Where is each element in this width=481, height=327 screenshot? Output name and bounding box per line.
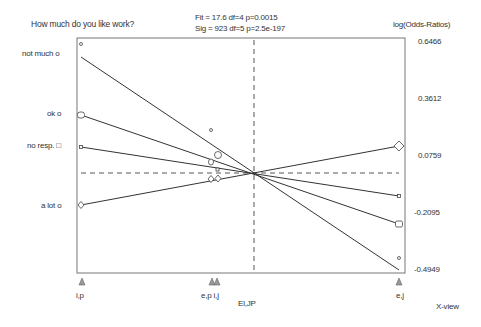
marker-a-lot-mid-2 [215,175,221,182]
marker-no-resp-mid [216,168,219,171]
x-marker-ij[interactable] [214,278,220,285]
marker-ok-left [78,112,85,118]
series-line-not-much [81,57,399,270]
plot-area [0,0,481,327]
marker-no-resp-left [80,146,83,149]
marker-ok-mid [215,152,222,159]
marker-ok-mid-2 [209,159,214,165]
x-marker-ej[interactable] [396,278,402,285]
marker-not-much-left [80,43,83,46]
marker-a-lot-left [78,202,84,209]
marker-ok-right [396,221,403,227]
x-marker-ep[interactable] [209,278,215,285]
plot-frame [77,38,405,273]
marker-not-much-mid [210,129,213,132]
marker-no-resp-right [398,195,401,198]
x-marker-ip[interactable] [79,278,85,285]
marker-a-lot-right [394,141,404,151]
series-line-ok [81,115,399,224]
marker-not-much-right [398,257,401,260]
